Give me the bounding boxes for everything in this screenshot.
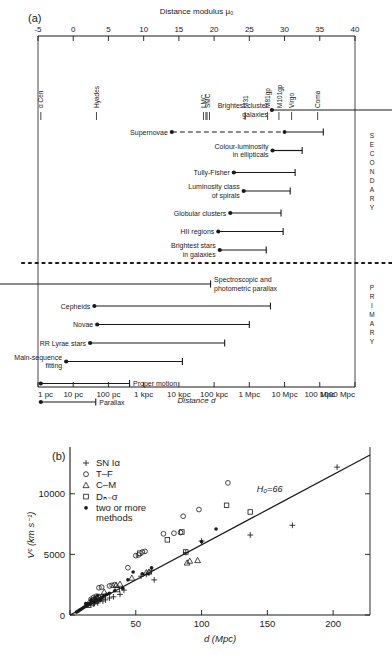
- indicator-label: in galaxies: [183, 251, 217, 259]
- indicator-label: Proper motion: [133, 380, 177, 388]
- side-label-secondary-char: C: [370, 150, 375, 157]
- legend: SN IαT–FC–MDₙ₋σtwo or moremethods: [83, 457, 146, 523]
- data-point-legend-circle-open: [84, 472, 89, 477]
- indicator-value-dot: [270, 108, 274, 112]
- data-point-circle-open: [197, 507, 202, 512]
- bottom-axis-tick-label: 10 Mpc: [271, 390, 297, 399]
- legend-label: C–M: [96, 479, 116, 490]
- data-point-dot-filled: [121, 587, 125, 591]
- y-axis-tick-label: 5000: [44, 549, 65, 560]
- legend-label: T–F: [96, 468, 113, 479]
- side-label-primary-char: R: [370, 293, 375, 300]
- data-point-square-open: [224, 503, 229, 508]
- side-label-primary-char: R: [370, 329, 375, 336]
- data-point-dot-filled: [126, 578, 130, 582]
- top-axis-tick-label: 40: [351, 25, 360, 34]
- indicator-value-dot: [92, 304, 96, 308]
- data-point-dot-filled: [98, 599, 102, 603]
- indicator-label: of spirals: [212, 192, 241, 200]
- panel-a: (a)Distance modulus μ₀Distance d-5051015…: [0, 7, 392, 406]
- distance-indicator-row: Main-sequencefitting: [14, 354, 182, 370]
- side-label-secondary-char: Y: [370, 204, 375, 211]
- indicator-label: Brightest cluster: [218, 102, 269, 110]
- side-label-secondary-char: R: [370, 195, 375, 202]
- object-marker: SMC: [204, 93, 211, 120]
- panel-a-tag: (a): [28, 12, 41, 24]
- distance-indicator-row: Novae: [73, 321, 249, 328]
- side-label-primary-char: Y: [370, 338, 375, 345]
- indicator-value-dot: [216, 229, 220, 233]
- bottom-axis-tick-label: 10 pc: [63, 390, 83, 399]
- indicator-value-dot: [170, 130, 174, 134]
- y-axis-title: Vᶜ (km s⁻¹): [25, 512, 36, 559]
- data-point-legend-plus: [83, 460, 89, 466]
- data-point-dot-filled: [131, 570, 135, 574]
- indicator-value-dot: [39, 400, 43, 404]
- x-axis-tick-label: 100: [194, 618, 210, 629]
- data-point-triangle-open: [195, 557, 201, 562]
- indicator-label: Tully-Fisher: [194, 169, 231, 177]
- x-axis-tick-label: 150: [259, 618, 275, 629]
- object-marker: Hyades: [93, 85, 101, 120]
- indicator-label: RR Lyrae stars: [40, 340, 87, 348]
- top-axis-tick-label: 35: [315, 25, 324, 34]
- object-marker: M101gp: [276, 84, 284, 120]
- bottom-axis-tick-label: 100 kpc: [200, 390, 228, 399]
- indicator-value-dot: [232, 170, 236, 174]
- distance-indicator-row: Spectroscopic andphotometric parallax: [0, 276, 278, 292]
- data-point-square-open: [165, 538, 170, 543]
- side-label-primary-char: I: [371, 302, 373, 309]
- data-point-circle-open: [126, 565, 131, 570]
- data-point-dot-filled: [75, 610, 79, 614]
- distance-indicator-row: Globular clusters: [174, 210, 281, 217]
- distance-indicator-row: Cepheids: [61, 303, 271, 311]
- object-marker-label: Coma: [314, 90, 321, 108]
- top-axis-tick-label: 5: [106, 25, 111, 34]
- distance-indicator-row: Colour-luminosityin ellipticals: [215, 143, 303, 159]
- figure-svg: (a)Distance modulus μ₀Distance d-5051015…: [0, 0, 392, 655]
- data-point-square-open: [248, 510, 253, 515]
- top-axis-tick-label: 30: [280, 25, 289, 34]
- object-marker-label: α Cen: [37, 90, 44, 108]
- data-point-dot-filled: [96, 594, 100, 598]
- object-marker: α Cen: [37, 90, 44, 120]
- distance-indicator-row: HII regions: [180, 228, 283, 236]
- side-label-primary-char: P: [370, 284, 374, 291]
- indicator-label: Colour-luminosity: [215, 143, 270, 151]
- indicator-label: Supernovae: [130, 129, 168, 137]
- top-axis-tick-label: 0: [71, 25, 76, 34]
- indicator-value-dot: [88, 341, 92, 345]
- x-axis-title: d (Mpc): [204, 633, 236, 644]
- legend-label: two or more: [96, 502, 146, 513]
- panel-a-top-axis-title: Distance modulus μ₀: [160, 7, 234, 16]
- indicator-label: Cepheids: [61, 303, 91, 311]
- legend-label: Dₙ₋σ: [96, 491, 118, 502]
- bottom-axis-tick-label: 10 kpc: [167, 390, 191, 399]
- indicator-label: Brightest stars: [171, 242, 216, 250]
- data-point-plus: [111, 594, 117, 600]
- indicator-value-dot: [283, 130, 287, 134]
- indicator-label: Luminosity class: [188, 183, 240, 191]
- distance-indicator-row: Parallax: [39, 399, 125, 406]
- object-marker-label: Hyades: [93, 85, 101, 108]
- indicator-label: Novae: [73, 321, 93, 328]
- legend-label: methods: [96, 512, 133, 523]
- distance-indicator-row: Brightest clustergalaxies: [218, 102, 392, 118]
- data-point-circle-open: [226, 481, 231, 486]
- indicator-label: in ellipticals: [233, 151, 269, 159]
- bottom-axis-tick-label: 1 pc: [38, 390, 53, 399]
- data-point-circle-open: [181, 514, 186, 519]
- data-point-plus: [289, 522, 295, 528]
- side-label-primary: PRIMARY: [369, 284, 375, 345]
- distance-indicator-row: Tully-Fisher: [194, 169, 296, 177]
- indicator-label: Globular clusters: [174, 210, 227, 217]
- data-point-dot-filled: [214, 527, 218, 531]
- indicator-label: photometric parallax: [214, 285, 278, 293]
- distance-indicator-row: Brightest starsin galaxies: [171, 242, 266, 258]
- indicator-value-dot: [270, 148, 274, 152]
- data-point-plus: [117, 591, 123, 597]
- data-point-dot-filled: [89, 598, 93, 602]
- indicator-value-dot: [218, 248, 222, 252]
- object-marker-label: SMC: [204, 93, 211, 108]
- side-label-primary-char: M: [369, 311, 374, 318]
